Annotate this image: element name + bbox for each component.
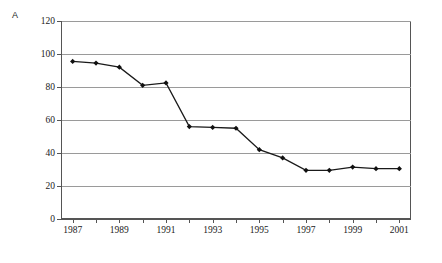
data-point-marker <box>397 166 402 171</box>
y-tick-label: 80 <box>5 82 55 92</box>
x-tick-mark <box>236 219 237 223</box>
chart-figure: A 020406080100120 1987198919911993199519… <box>0 0 442 263</box>
y-tick-label: 20 <box>5 181 55 191</box>
x-tick-label: 1993 <box>203 225 222 235</box>
x-tick-label: 1989 <box>110 225 129 235</box>
data-point-marker <box>303 168 308 173</box>
x-tick-mark <box>283 219 284 223</box>
data-point-marker <box>163 80 168 85</box>
x-tick-mark <box>166 219 167 223</box>
data-point-marker <box>187 124 192 129</box>
data-line <box>73 61 400 170</box>
x-tick-label: 1991 <box>157 225 176 235</box>
x-tick-mark <box>143 219 144 223</box>
x-tick-mark <box>189 219 190 223</box>
y-tick-mark <box>57 219 61 220</box>
x-tick-mark <box>213 219 214 223</box>
y-tick-label: 0 <box>5 214 55 224</box>
x-tick-mark <box>329 219 330 223</box>
series-line-a <box>61 21 411 219</box>
y-tick-label: 40 <box>5 148 55 158</box>
x-tick-mark <box>73 219 74 223</box>
x-tick-label: 1987 <box>63 225 82 235</box>
data-point-marker <box>373 166 378 171</box>
y-tick-label: 120 <box>5 16 55 26</box>
x-tick-label: 1995 <box>250 225 269 235</box>
y-tick-label: 100 <box>5 49 55 59</box>
data-point-marker <box>70 59 75 64</box>
data-point-marker <box>93 60 98 65</box>
x-tick-label: 1997 <box>297 225 316 235</box>
x-tick-mark <box>399 219 400 223</box>
x-tick-mark <box>259 219 260 223</box>
plot-area <box>61 21 411 219</box>
x-tick-label: 1999 <box>343 225 362 235</box>
x-tick-mark <box>96 219 97 223</box>
x-tick-mark <box>119 219 120 223</box>
data-point-marker <box>280 155 285 160</box>
data-point-marker <box>327 168 332 173</box>
x-tick-mark <box>353 219 354 223</box>
x-tick-mark <box>306 219 307 223</box>
x-tick-mark <box>376 219 377 223</box>
data-point-marker <box>350 164 355 169</box>
data-point-marker <box>210 125 215 130</box>
x-tick-label: 2001 <box>390 225 409 235</box>
y-tick-label: 60 <box>5 115 55 125</box>
